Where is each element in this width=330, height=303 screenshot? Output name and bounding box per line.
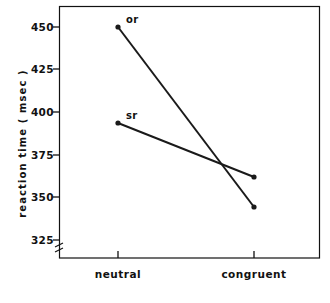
y-axis-ticks xyxy=(53,27,60,240)
series-sr-point-neutral xyxy=(115,120,120,125)
plot-area xyxy=(0,0,330,303)
reaction-time-line-chart: reaction time ( msec ) 450 425 400 375 3… xyxy=(0,0,330,303)
plot-frame xyxy=(60,7,320,259)
series-or-point-neutral xyxy=(115,24,120,29)
series-or xyxy=(115,24,256,209)
series-sr-point-congruent xyxy=(251,174,256,179)
series-sr xyxy=(115,120,256,179)
series-or-line xyxy=(118,27,254,207)
x-axis-ticks xyxy=(118,251,254,258)
series-sr-line xyxy=(118,123,254,177)
series-or-point-congruent xyxy=(251,204,256,209)
